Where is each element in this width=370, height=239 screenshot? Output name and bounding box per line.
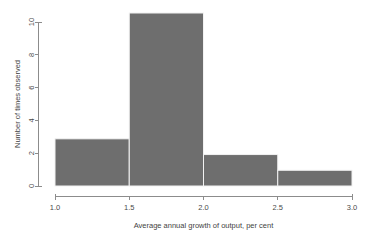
x-tick-label-3-0: 3.0 bbox=[347, 203, 357, 212]
y-tick-label-2: 2 bbox=[27, 151, 36, 155]
y-tick-label-10: 10 bbox=[27, 18, 36, 26]
bar-bin-1-5-to-2-0 bbox=[129, 13, 203, 186]
y-tick-label-4: 4 bbox=[27, 118, 36, 122]
bar-bin-1-0-to-1-5 bbox=[55, 139, 129, 186]
x-tick-label-1-5: 1.5 bbox=[124, 203, 134, 212]
x-tick-label-1-0: 1.0 bbox=[50, 203, 60, 212]
y-axis-title: Number of times observed bbox=[13, 60, 22, 148]
bar-bin-2-0-to-2-5 bbox=[204, 155, 278, 186]
y-tick-label-6: 6 bbox=[27, 86, 36, 90]
y-tick-label-8: 8 bbox=[27, 53, 36, 57]
histogram-plot: 0 2 4 6 8 10 Number of times observed 1.… bbox=[0, 0, 370, 239]
x-axis-title: Average annual growth of output, per cen… bbox=[134, 221, 274, 230]
bar-bin-2-5-to-3-0 bbox=[278, 170, 352, 186]
x-tick-label-2-0: 2.0 bbox=[198, 203, 208, 212]
x-tick-label-2-5: 2.5 bbox=[272, 203, 282, 212]
histogram-figure: 0 2 4 6 8 10 Number of times observed 1.… bbox=[0, 0, 370, 239]
y-tick-label-0: 0 bbox=[27, 184, 36, 188]
